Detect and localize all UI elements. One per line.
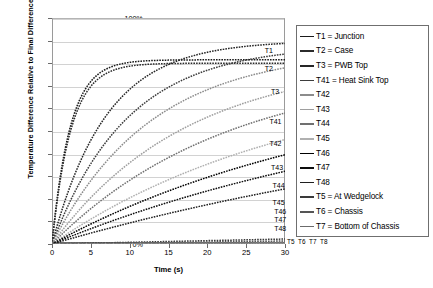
inline-label-T3: T3 (271, 88, 279, 95)
legend-item-T44[interactable]: T44 (300, 117, 426, 132)
legend-swatch-T41 (300, 77, 314, 84)
x-tick-label: 15 (157, 248, 181, 257)
legend-label-T42: T42 (316, 90, 330, 99)
series-line-T8 (52, 243, 285, 244)
legend-item-T1[interactable]: T1 = Junction (300, 29, 426, 44)
legend-item-T45[interactable]: T45 (300, 131, 426, 146)
series-curves (52, 18, 285, 244)
inline-label-T48: T48 (274, 225, 286, 232)
legend-swatch-T42 (300, 91, 314, 98)
legend-label-T5: T5 = At Wedgelock (316, 192, 383, 201)
legend-swatch-T3 (300, 62, 314, 69)
legend-swatch-T5 (300, 193, 314, 200)
x-tick-label: 5 (79, 248, 103, 257)
legend-swatch-T48 (300, 179, 314, 186)
x-tick-mark (207, 244, 208, 248)
legend-label-T7: T7 = Bottom of Chassis (316, 222, 399, 231)
x-tick-mark (169, 244, 170, 248)
legend-label-T47: T47 (316, 163, 330, 172)
legend-label-T48: T48 (316, 178, 330, 187)
legend-label-T43: T43 (316, 105, 330, 114)
series-line-T2 (52, 63, 285, 244)
x-tick-label: 30 (273, 248, 297, 257)
inline-label-T43: T43 (271, 164, 283, 171)
x-tick-label: 0 (40, 248, 64, 257)
inline-label-T41: T41 (269, 118, 281, 125)
x-axis-title: Time (s) (52, 265, 285, 274)
inline-label-T45: T45 (273, 199, 285, 206)
legend-label-T41: T41 = Heat Sink Top (316, 76, 388, 85)
series-line-T1 (52, 60, 285, 244)
legend-label-T6: T6 = Chassis (316, 207, 363, 216)
axis-end-label-T7: T7 (309, 238, 316, 245)
series-line-T48 (52, 189, 285, 244)
series-line-T44 (52, 113, 285, 244)
x-tick-label: 25 (234, 248, 258, 257)
x-tick-mark (285, 244, 286, 248)
legend-label-T45: T45 (316, 134, 330, 143)
inline-label-T47: T47 (274, 216, 286, 223)
legend-item-T42[interactable]: T42 (300, 87, 426, 102)
legend-item-T2[interactable]: T2 = Case (300, 44, 426, 59)
legend-label-T44: T44 (316, 119, 330, 128)
x-tick-label: 10 (118, 248, 142, 257)
legend-swatch-T44 (300, 120, 314, 127)
y-axis-title: Temperature Difference Relative to Final… (26, 0, 36, 184)
legend-label-T3: T3 = PWB Top (316, 61, 368, 70)
legend-swatch-T7 (300, 223, 314, 230)
inline-label-T42: T42 (269, 140, 281, 147)
legend-label-T46: T46 (316, 149, 330, 158)
axis-end-label-T8: T8 (320, 238, 327, 245)
legend-label-T1: T1 = Junction (316, 32, 364, 41)
x-tick-mark (52, 244, 53, 248)
legend-swatch-T6 (300, 208, 314, 215)
legend-swatch-T46 (300, 150, 314, 157)
legend-item-T43[interactable]: T43 (300, 102, 426, 117)
legend-item-T6[interactable]: T6 = Chassis (300, 204, 426, 219)
legend-item-T41[interactable]: T41 = Heat Sink Top (300, 73, 426, 88)
legend-item-T47[interactable]: T47 (300, 160, 426, 175)
x-tick-label: 20 (195, 248, 219, 257)
legend-item-T5[interactable]: T5 = At Wedgelock (300, 190, 426, 205)
chart-figure: Temperature Difference Relative to Final… (0, 0, 433, 288)
inline-label-T1: T1 (265, 47, 273, 54)
series-line-T46 (52, 155, 285, 244)
series-line-T42 (52, 68, 285, 244)
legend-swatch-T47 (300, 164, 314, 171)
legend-item-T7[interactable]: T7 = Bottom of Chassis (300, 219, 426, 234)
chart-legend: T1 = JunctionT2 = CaseT3 = PWB TopT41 = … (296, 25, 429, 237)
axis-end-label-T6: T6 (298, 238, 305, 245)
legend-swatch-T43 (300, 106, 314, 113)
legend-swatch-T45 (300, 135, 314, 142)
inline-label-T2: T2 (265, 65, 273, 72)
inline-label-T44: T44 (273, 182, 285, 189)
legend-item-T46[interactable]: T46 (300, 146, 426, 161)
x-tick-mark (91, 244, 92, 248)
legend-item-T3[interactable]: T3 = PWB Top (300, 58, 426, 73)
x-tick-mark (130, 244, 131, 248)
legend-swatch-T1 (300, 33, 314, 40)
legend-swatch-T2 (300, 47, 314, 54)
axis-end-label-T5: T5 (287, 238, 294, 245)
legend-item-T48[interactable]: T48 (300, 175, 426, 190)
x-tick-mark (246, 244, 247, 248)
series-line-T47 (52, 171, 285, 244)
inline-label-T46: T46 (274, 208, 286, 215)
legend-label-T2: T2 = Case (316, 46, 353, 55)
